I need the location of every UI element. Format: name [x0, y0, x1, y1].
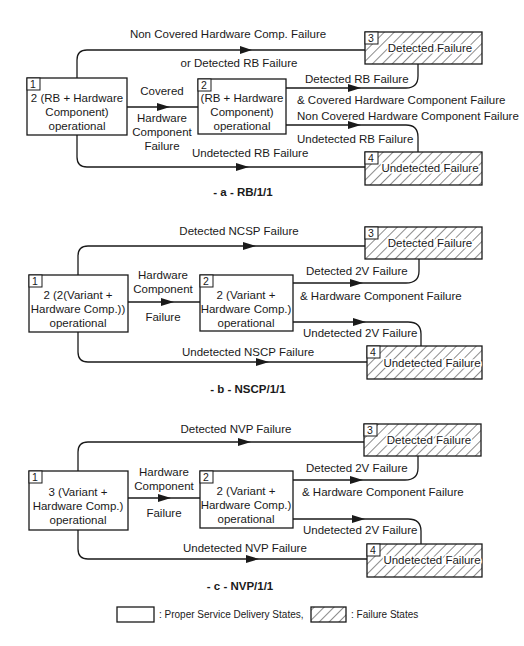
- legend-failure-label: : Failure States: [351, 609, 418, 620]
- state-b-1: 1 2 (2(Variant + Hardware Comp.)) operat…: [29, 275, 128, 332]
- transition-label: & Covered Hardware Component Failure: [297, 94, 505, 106]
- state-label: operational: [214, 120, 271, 132]
- transition-label: Component: [132, 126, 192, 138]
- arrow-icon: [353, 318, 366, 326]
- arrow-icon: [256, 358, 269, 366]
- state-number: 3: [368, 227, 374, 239]
- arrow-icon: [238, 438, 251, 446]
- state-number: 2: [203, 471, 209, 483]
- state-label: operational: [50, 317, 107, 329]
- legend-failure-swatch: [311, 607, 346, 622]
- state-label: operational: [49, 120, 106, 132]
- transition-label: Undetected NSCP Failure: [182, 346, 314, 358]
- diagram-c: 1 3 (Variant + Hardware Comp.) operation…: [29, 423, 482, 592]
- transition-label: Hardware: [138, 269, 188, 281]
- transition-label: Undetected NVP Failure: [183, 542, 307, 554]
- transition-label: Covered: [140, 85, 183, 97]
- transition-label: Detected 2V Failure: [306, 462, 408, 474]
- state-number: 1: [32, 471, 38, 483]
- diagram-caption: - c - NVP/1/1: [207, 580, 274, 592]
- state-label: Detected Failure: [388, 42, 472, 54]
- arrow-icon: [157, 103, 170, 111]
- transition-label: Detected RB Failure: [305, 73, 409, 85]
- transition-label: & Hardware Component Failure: [302, 486, 464, 498]
- state-label: Component): [45, 106, 108, 118]
- transition-label: Failure: [146, 507, 181, 519]
- state-b-4: 4 Undetected Failure: [367, 346, 482, 379]
- diagram-caption: - b - NSCP/1/1: [210, 383, 286, 395]
- state-label: 3 (Variant +: [49, 486, 108, 498]
- state-label: Undetected Failure: [381, 162, 478, 174]
- state-label: operational: [218, 513, 275, 525]
- state-a-4: 4 Undetected Failure: [365, 152, 482, 185]
- legend-proper-swatch: [117, 607, 154, 622]
- arrow-icon: [158, 494, 171, 502]
- state-label: Hardware Comp.): [201, 499, 292, 511]
- state-c-1: 1 3 (Variant + Hardware Comp.) operation…: [29, 471, 128, 530]
- transition-label: Undetected 2V Failure: [303, 327, 417, 339]
- state-b-3: 3 Detected Failure: [365, 227, 482, 259]
- arrow-icon: [352, 515, 365, 523]
- arrow-icon: [243, 242, 256, 250]
- state-c-2: 2 2 (Variant + Hardware Comp.) operation…: [200, 471, 293, 528]
- state-label: Component): [210, 106, 273, 118]
- state-label: Undetected Failure: [383, 357, 480, 369]
- state-c-4: 4 Undetected Failure: [367, 544, 482, 577]
- state-label: (RB + Hardware: [201, 92, 284, 104]
- transition-label: or Detected RB Failure: [181, 57, 298, 69]
- transition-label: Detected NVP Failure: [180, 423, 291, 435]
- transition-label: & Hardware Component Failure: [300, 290, 462, 302]
- state-number: 4: [370, 346, 376, 358]
- state-b-2: 2 2 (Variant + Hardware Comp.) operation…: [200, 275, 293, 331]
- state-label: Hardware Comp.): [33, 500, 124, 512]
- transition-label: Non Covered Hardware Component Failure: [297, 110, 519, 122]
- state-label: Undetected Failure: [383, 554, 480, 566]
- state-number: 2: [201, 79, 207, 91]
- arrow-icon: [240, 46, 252, 54]
- transition-label: Detected 2V Failure: [306, 265, 408, 277]
- state-a-2: 2 (RB + Hardware Component) operational: [198, 79, 286, 134]
- transition-label: Failure: [144, 140, 179, 152]
- state-label: Hardware Comp.): [201, 303, 292, 315]
- state-number: 1: [32, 275, 38, 287]
- state-a-3: 3 Detected Failure: [365, 32, 482, 64]
- arrow-icon: [350, 476, 363, 484]
- legend-proper-label: : Proper Service Delivery States,: [159, 609, 304, 620]
- state-number: 3: [367, 424, 373, 436]
- state-number: 4: [370, 544, 376, 556]
- state-label: Detected Failure: [388, 237, 472, 249]
- diagram-b: 1 2 (2(Variant + Hardware Comp.)) operat…: [29, 225, 482, 395]
- arrow-icon: [236, 163, 249, 171]
- transition-label: Failure: [145, 311, 180, 323]
- state-number: 3: [368, 32, 374, 44]
- transition-label: Component: [133, 283, 193, 295]
- legend: : Proper Service Delivery States, : Fail…: [117, 607, 418, 622]
- diagram-a: 1 2 (RB + Hardware Component) operationa…: [27, 28, 519, 198]
- transition-label: Undetected RB Failure: [192, 147, 308, 159]
- arrow-icon: [246, 555, 259, 563]
- arrow-icon: [350, 279, 363, 287]
- state-label: 2 (RB + Hardware: [31, 92, 123, 104]
- state-label: operational: [218, 317, 275, 329]
- transition-label: Component: [134, 480, 194, 492]
- diagram-caption: - a - RB/1/1: [213, 186, 273, 198]
- transition-label: Non Covered Hardware Comp. Failure: [130, 28, 326, 40]
- state-label: 2 (Variant +: [217, 485, 276, 497]
- transition-label: Detected NCSP Failure: [179, 225, 298, 237]
- state-label: 2 (2(Variant +: [43, 289, 112, 301]
- state-number: 1: [30, 78, 36, 90]
- state-number: 2: [203, 275, 209, 287]
- arrow-icon: [348, 121, 361, 129]
- arrow-icon: [348, 84, 361, 92]
- arrow-icon: [161, 298, 174, 306]
- state-label: Hardware Comp.)): [31, 303, 126, 315]
- state-label: Detected Failure: [387, 434, 471, 446]
- state-number: 4: [368, 152, 374, 164]
- transition-label: Undetected 2V Failure: [303, 524, 417, 536]
- transition-label: Hardware: [137, 112, 187, 124]
- state-label: 2 (Variant +: [217, 289, 276, 301]
- markov-diagrams: 1 2 (RB + Hardware Component) operationa…: [0, 0, 524, 646]
- state-a-1: 1 2 (RB + Hardware Component) operationa…: [27, 78, 127, 135]
- transition-label: Hardware: [139, 466, 189, 478]
- state-label: operational: [50, 514, 107, 526]
